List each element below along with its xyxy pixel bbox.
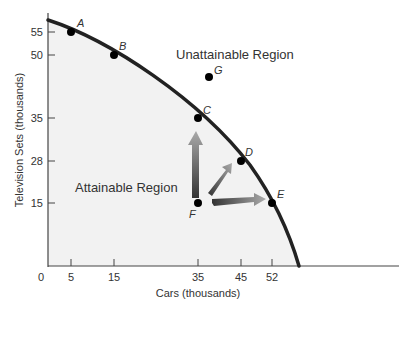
point-g: [205, 73, 213, 81]
y-tick-labels: 55 50 35 28 15: [31, 26, 43, 209]
y-tick-label: 35: [31, 112, 43, 124]
point-e: [268, 199, 276, 207]
y-tick-label: 55: [31, 26, 43, 38]
point-label-b: B: [119, 40, 126, 52]
point-label-e: E: [277, 188, 285, 200]
point-label-g: G: [214, 64, 223, 76]
x-axis-title: Cars (thousands): [156, 287, 240, 299]
point-f: [194, 199, 202, 207]
x-tick-label: 15: [108, 271, 120, 283]
y-tick-label: 15: [31, 197, 43, 209]
point-a: [67, 28, 75, 36]
x-tick-label: 52: [266, 271, 278, 283]
x-tick-label: 45: [235, 271, 247, 283]
unattainable-region-label: Unattainable Region: [176, 47, 294, 62]
point-d: [237, 157, 245, 165]
point-label-d: D: [245, 146, 253, 158]
point-b: [110, 51, 118, 59]
x-tick-label: 0: [38, 271, 44, 283]
point-label-c: C: [203, 104, 211, 116]
y-tick-label: 28: [31, 155, 43, 167]
attainable-region-label: Attainable Region: [75, 180, 178, 195]
y-tick-label: 50: [31, 49, 43, 61]
x-tick-label: 35: [192, 271, 204, 283]
y-axis-title: Television Sets (thousands): [13, 73, 25, 208]
point-label-a: A: [76, 17, 84, 29]
x-tick-label: 5: [68, 271, 74, 283]
x-tick-labels: 0 5 15 35 45 52: [38, 271, 278, 283]
point-c: [194, 114, 202, 122]
ppf-chart: 55 50 35 28 15 0 5 15 35 45 52 Cars (tho…: [0, 0, 411, 338]
